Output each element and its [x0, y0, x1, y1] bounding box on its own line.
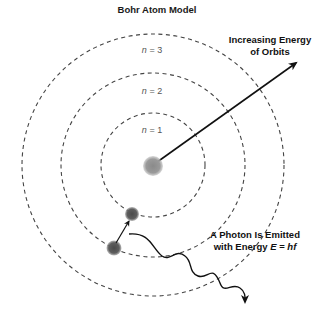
photon-label-line2: with Energy E = hf: [213, 241, 297, 252]
energy-label-line2: of Orbits: [250, 46, 290, 57]
bohr-diagram: Bohr Atom Model n = 1 n = 2 n = 3 Increa…: [0, 0, 325, 330]
orbit-label-n2: n = 2: [142, 86, 162, 96]
nucleus: [143, 156, 163, 176]
diagram-title: Bohr Atom Model: [118, 4, 197, 15]
transition-arrow: [116, 221, 129, 243]
photon-label-line1: A Photon Is Emitted: [210, 229, 300, 240]
energy-label-line1: Increasing Energy: [229, 34, 312, 45]
orbit-label-n3: n = 3: [142, 45, 162, 55]
energy-arrow: [153, 63, 296, 165]
electron-lower: [107, 241, 122, 256]
electron-upper: [125, 207, 139, 221]
orbit-label-n1: n = 1: [142, 125, 162, 135]
